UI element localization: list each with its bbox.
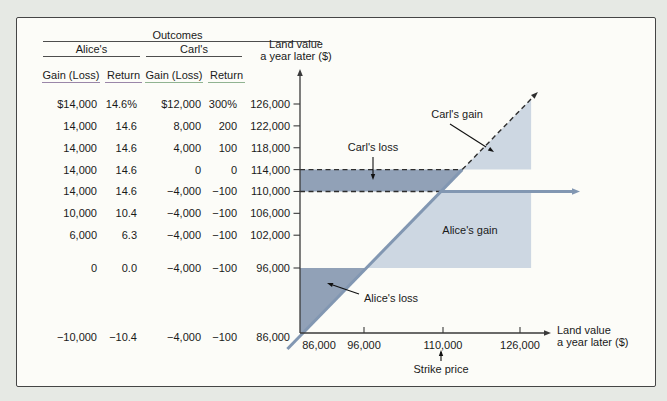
annotation-carl-s-gain: Carl's gain [431,108,483,120]
x-tick-label: 110,000 [424,339,463,351]
x-tick-label: 96,000 [347,339,381,351]
annotation-alice-s-loss: Alice's loss [364,292,419,304]
annotation-alice-s-gain: Alice's gain [442,224,497,236]
x-axis-label-line2: a year later ($) [557,336,629,348]
payoff-chart: 86,00096,000110,000126,000Land valuea ye… [0,0,667,401]
x-axis-label-line1: Land value [557,324,611,336]
figure-canvas: Outcomes Alice's Carl's Gain (Loss) Retu… [0,0,667,401]
region-carls-loss [300,170,462,192]
annotation-carl-s-loss: Carl's loss [348,141,399,153]
x-axis-arrowhead [544,330,551,336]
x-tick-label: 126,000 [500,339,540,351]
y-axis-arrowhead [297,69,303,76]
dashed-diagonal-arrowhead [531,92,538,99]
x-tick-label: 86,000 [302,339,336,351]
annotation-strike-price: Strike price [413,363,468,375]
annotation-leader [450,124,486,147]
strike-payoff-arrowhead [572,188,580,194]
